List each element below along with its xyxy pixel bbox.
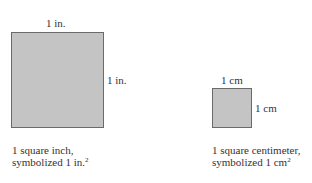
square-cm-caption-line1: 1 square centimeter, — [212, 144, 300, 156]
square-cm-shape — [212, 88, 252, 128]
square-cm-caption-line2: symbolized 1 cm2 — [212, 156, 300, 168]
square-inch-shape — [11, 32, 104, 128]
square-cm-caption: 1 square centimeter, symbolized 1 cm2 — [212, 144, 300, 168]
exponent: 2 — [85, 156, 89, 164]
square-inch-caption-line2: symbolized 1 in.2 — [12, 156, 89, 168]
square-inch-caption: 1 square inch, symbolized 1 in.2 — [12, 144, 89, 168]
square-inch-side-label: 1 in. — [107, 74, 127, 86]
exponent: 2 — [287, 156, 291, 164]
square-cm-top-label: 1 cm — [221, 74, 243, 86]
square-inch-top-label: 1 in. — [46, 17, 66, 29]
square-cm-side-label: 1 cm — [255, 102, 277, 114]
square-inch-caption-line1: 1 square inch, — [12, 144, 89, 156]
